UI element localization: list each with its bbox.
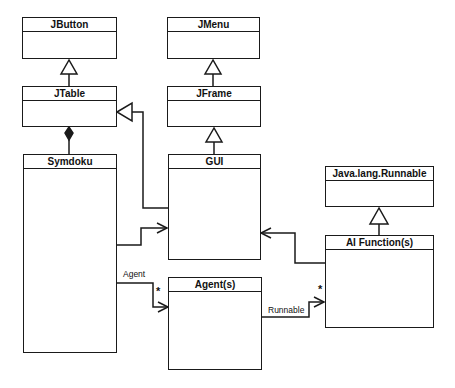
class-name: AI Function(s) <box>326 236 433 250</box>
class-gui: GUI <box>168 154 261 260</box>
class-jmenu: JMenu <box>167 17 260 59</box>
class-name: JMenu <box>168 18 259 32</box>
class-name: Symdoku <box>24 155 116 169</box>
runnable-association-label: Runnable <box>268 305 304 315</box>
class-jbutton: JButton <box>22 17 117 59</box>
agent-association-label: Agent <box>123 269 145 279</box>
class-name: JButton <box>23 18 116 32</box>
class-name: JFrame <box>168 87 260 101</box>
uml-diagram: JButton JTable Symdoku JMenu JFrame GUI … <box>0 0 455 388</box>
ai-multiplicity: * <box>318 283 322 295</box>
agent-multiplicity: * <box>156 285 160 297</box>
class-name: Agent(s) <box>169 278 261 292</box>
class-name: GUI <box>169 155 260 169</box>
class-symdoku: Symdoku <box>23 154 117 353</box>
class-name: Java.lang.Runnable <box>326 167 433 181</box>
class-jtable: JTable <box>22 86 117 127</box>
class-java-lang-runnable: Java.lang.Runnable <box>325 166 434 207</box>
class-agents: Agent(s) <box>168 277 262 370</box>
class-ai-functions: AI Function(s) <box>325 235 434 328</box>
class-name: JTable <box>23 87 116 101</box>
class-jframe: JFrame <box>167 86 261 127</box>
